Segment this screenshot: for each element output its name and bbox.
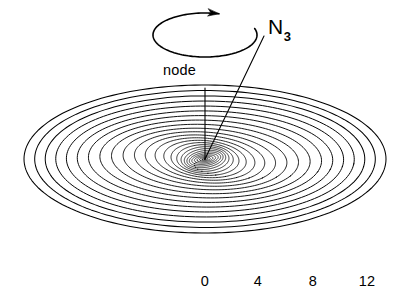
rotation-arrow-arc xyxy=(153,13,257,57)
axis-tick-12: 12 xyxy=(347,274,387,289)
axis-tick-4: 4 xyxy=(238,274,278,289)
figure-root: node N3 04812 xyxy=(0,0,412,295)
n-subscript: 3 xyxy=(284,29,291,44)
n-symbol: N xyxy=(268,15,283,38)
warped-disk-figure xyxy=(0,0,412,295)
axis-tick-8: 8 xyxy=(293,274,333,289)
angular-momentum-label: N3 xyxy=(268,16,290,41)
node-label: node xyxy=(163,63,196,78)
rotation-arrow-icon xyxy=(153,9,257,57)
axis-tick-0: 0 xyxy=(185,274,225,289)
